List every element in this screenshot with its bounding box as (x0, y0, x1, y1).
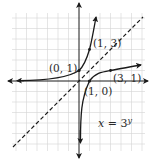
label-point-0-1: (0, 1) (49, 62, 77, 74)
equation-base: 3 (120, 117, 127, 130)
point-3-1 (109, 69, 112, 72)
label-point-3-1: (3, 1) (113, 72, 141, 84)
equation-exponent: y (126, 116, 132, 125)
function-graph: (0, 1) (1, 3) (1, 0) (3, 1) x = 3y (0, 0, 151, 160)
label-point-1-3: (1, 3) (93, 37, 121, 49)
point-1-0 (88, 79, 91, 82)
point-0-1 (77, 69, 80, 72)
label-point-1-0: (1, 0) (84, 85, 112, 97)
point-1-3 (88, 48, 91, 51)
equation-label: x = 3y (98, 116, 132, 130)
equation-equals: = (108, 117, 117, 130)
equation-x: x (98, 117, 105, 130)
